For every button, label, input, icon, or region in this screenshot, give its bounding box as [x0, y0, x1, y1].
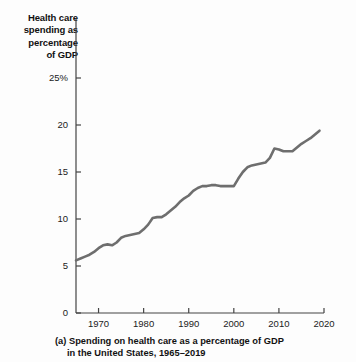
x-tick-label: 1970 [79, 318, 119, 329]
axis-lines [76, 18, 324, 313]
x-axis-ticks [99, 308, 324, 313]
y-tick-label: 20 [28, 119, 68, 130]
caption-line-2: in the United States, 1965–2019 [55, 348, 315, 360]
y-axis-ticks [76, 78, 81, 313]
x-tick-label: 2010 [259, 318, 299, 329]
x-tick-label: 1990 [169, 318, 209, 329]
caption-line-1: (a) Spending on health care as a percent… [55, 336, 284, 346]
y-tick-label: 5 [28, 260, 68, 271]
y-tick-label: 10 [28, 213, 68, 224]
x-tick-label: 2020 [304, 318, 344, 329]
x-tick-label: 1980 [124, 318, 164, 329]
figure-panel: Health care spending as percentage of GD… [0, 0, 356, 362]
figure-caption: (a) Spending on health care as a percent… [55, 336, 315, 359]
x-tick-label: 2000 [214, 318, 254, 329]
series-line-health-care-spending [76, 131, 319, 261]
y-tick-label: 0 [28, 307, 68, 318]
y-tick-label: 25% [28, 72, 68, 83]
y-tick-label: 15 [28, 166, 68, 177]
